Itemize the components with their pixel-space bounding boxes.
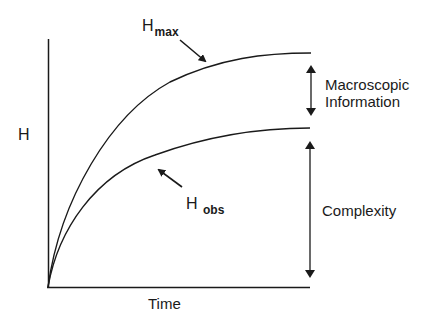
macroscopic-label-line1: Macroscopic xyxy=(325,76,409,93)
complexity-label: Complexity xyxy=(322,202,396,219)
h-obs-subscript: obs xyxy=(203,203,224,217)
h-max-pointer-arrow xyxy=(180,40,205,61)
h-obs-label: H obs xyxy=(186,196,224,212)
h-max-subscript: max xyxy=(155,25,179,39)
h-obs-curve xyxy=(48,128,310,287)
macroscopic-information-label: Macroscopic Information xyxy=(325,76,409,110)
x-axis-label: Time xyxy=(148,295,181,312)
y-axis-label: H xyxy=(18,127,30,143)
complexity-bracket xyxy=(305,141,315,278)
macroscopic-label-line2: Information xyxy=(325,93,409,110)
h-max-curve xyxy=(48,53,311,287)
h-max-label: Hmax xyxy=(142,18,179,34)
h-max-base: H xyxy=(142,17,154,34)
h-obs-pointer-arrow xyxy=(159,170,182,187)
h-obs-base: H xyxy=(186,195,198,212)
entropy-complexity-diagram xyxy=(0,0,430,321)
macroscopic-information-bracket xyxy=(306,65,316,116)
